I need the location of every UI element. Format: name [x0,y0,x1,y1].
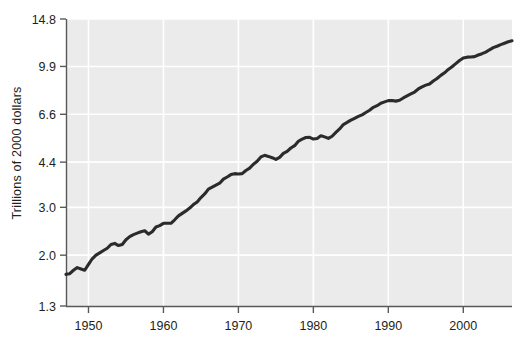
x-tick-label: 1970 [224,319,252,333]
y-tick-label: 6.6 [39,108,56,122]
plot-container: 1.32.03.04.46.69.914.8 19501960197019801… [0,0,523,338]
x-tick-label: 1990 [374,319,402,333]
x-tick-label: 1960 [150,319,178,333]
y-tick-label: 4.4 [39,156,56,170]
y-tick-label: 14.8 [32,13,56,27]
x-axis-ticks: 195019601970198019902000 [75,306,478,333]
x-tick-label: 2000 [449,319,477,333]
y-tick-label: 1.3 [39,300,56,314]
y-axis-ticks: 1.32.03.04.46.69.914.8 [32,13,66,314]
y-tick-label: 3.0 [39,201,56,215]
x-tick-label: 1950 [75,319,103,333]
y-tick-label: 9.9 [39,60,56,74]
y-tick-label: 2.0 [39,249,56,263]
line-chart-svg: 1.32.03.04.46.69.914.8 19501960197019801… [0,0,523,338]
x-tick-label: 1980 [299,319,327,333]
chart-figure: Trillions of 2000 dollars 1.32.03.04.46.… [0,0,523,338]
